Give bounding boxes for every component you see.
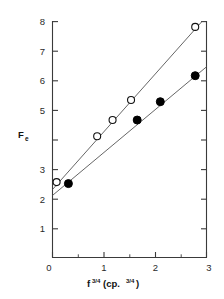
y-tick-label: 7: [40, 46, 45, 57]
x-axis-title-paren-exponent: 3/4: [126, 278, 135, 284]
scatter-plot: 8 7 6 5 3 2 1 0 1 2 3 F e f 3/4 (cp. 3/4…: [0, 0, 224, 299]
y-tick-label: 1: [40, 223, 45, 234]
axis-frame: [53, 21, 208, 258]
y-axis-title-base: F: [18, 129, 24, 140]
y-axis-ticks-left: [53, 22, 59, 229]
fit-line-open: [53, 21, 203, 190]
data-point-open: [128, 96, 135, 103]
y-axis-title: F e: [18, 129, 29, 142]
data-point-filled: [191, 72, 199, 80]
y-tick-label: 2: [40, 194, 45, 205]
x-axis-title-base: f: [87, 278, 91, 289]
y-axis-title-subscript: e: [25, 135, 29, 142]
y-tick-label: 5: [40, 105, 45, 116]
data-point-filled: [64, 180, 72, 188]
data-point-filled: [133, 116, 141, 124]
data-point-open: [192, 23, 199, 30]
data-point-filled: [156, 98, 164, 106]
x-tick-label: 1: [101, 262, 106, 273]
y-tick-label: 3: [40, 164, 45, 175]
x-tick-label: 3: [206, 262, 211, 273]
y-tick-label: 8: [40, 16, 45, 27]
y-axis-ticks-right: [201, 22, 207, 229]
x-tick-label: 0: [46, 262, 51, 273]
y-tick-labels: 8 7 6 5 3 2 1: [40, 16, 45, 234]
chart-figure: 8 7 6 5 3 2 1 0 1 2 3 F e f 3/4 (cp. 3/4…: [0, 0, 224, 299]
data-point-open: [109, 117, 116, 124]
series-open-circles: [53, 21, 203, 190]
x-tick-label: 2: [153, 262, 158, 273]
x-axis-title: f 3/4 (cp. 3/4 ): [87, 278, 139, 289]
y-tick-label: 6: [40, 75, 45, 86]
series-filled-circles: [53, 67, 207, 196]
x-tick-labels: 0 1 2 3: [46, 262, 211, 273]
data-point-open: [53, 179, 60, 186]
x-axis-ticks: [53, 252, 207, 258]
fit-line-filled: [53, 67, 207, 196]
x-axis-title-paren-close: ): [136, 278, 139, 289]
data-point-open: [94, 133, 101, 140]
x-axis-title-paren-open: (cp.: [103, 278, 120, 289]
x-axis-title-exponent: 3/4: [92, 278, 101, 284]
